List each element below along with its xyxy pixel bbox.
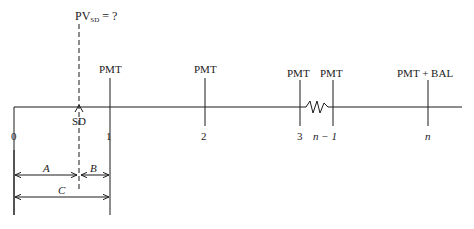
interval-label-c: C: [58, 184, 65, 196]
period-label-2: 2: [201, 130, 207, 142]
period-label-3: 3: [297, 130, 303, 142]
timeline-break-zigzag: [300, 101, 333, 113]
payment-label-1: PMT: [99, 63, 122, 75]
settlement-marker-label: SD: [72, 115, 86, 127]
period-label-n: n: [425, 130, 431, 142]
pv-prefix: PV: [75, 9, 90, 23]
payment-label-n: PMT + BAL: [397, 67, 453, 79]
period-label-0: 0: [11, 130, 17, 142]
period-label-1: 1: [106, 130, 112, 142]
payment-label-2: PMT: [194, 63, 217, 75]
payment-label-3: PMT: [287, 67, 310, 79]
payment-label-n-minus-1: PMT: [320, 67, 343, 79]
interval-label-b: B: [90, 162, 97, 174]
pv-subscript: SD: [90, 16, 99, 24]
present-value-label: PVSD = ?: [75, 10, 117, 26]
pv-suffix: = ?: [99, 9, 117, 23]
interval-label-a: A: [43, 162, 50, 174]
period-label-n-minus-1: n − 1: [313, 130, 337, 142]
